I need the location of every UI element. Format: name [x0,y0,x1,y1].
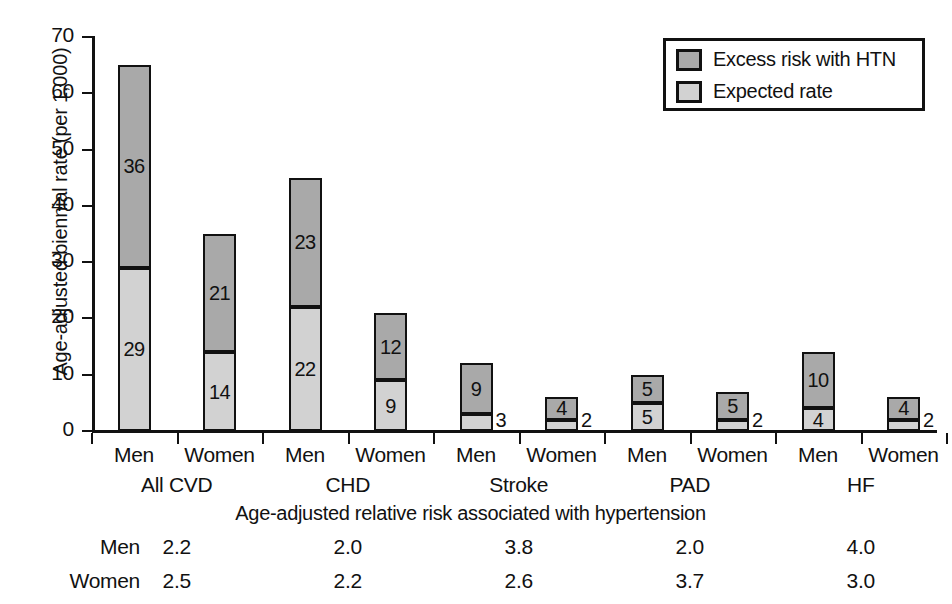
y-tick-mark [82,261,95,263]
x-group-label-hf: HF [791,473,931,497]
table-cell: 2.0 [303,535,393,559]
bar-value-excess: 12 [380,337,401,357]
bar-segment-expected: 29 [118,268,151,431]
y-tick-mark [82,430,95,432]
bar-segment-expected: 5 [631,403,664,431]
bar-value-expected: 2 [581,410,592,430]
bar-value-expected: 2 [923,410,934,430]
bar-segment-expected: 4 [802,408,835,431]
bar-hf-women: 42 [887,397,920,431]
bar-chd-women: 129 [374,313,407,431]
y-tick-label: 30 [14,248,74,272]
bar-segment-excess: 5 [716,392,749,420]
bar-segment-expected: 3 [460,414,493,431]
bar-segment-excess: 21 [203,234,236,352]
table-cell: 2.6 [474,569,564,593]
bar-segment-excess: 9 [460,363,493,414]
bar-value-excess: 9 [471,379,482,399]
bar-value-excess: 5 [642,379,653,399]
legend-label-expected: Expected rate [713,80,833,103]
bar-pad-men: 55 [631,375,664,431]
table-cell: 2.0 [645,535,735,559]
bar-hf-men: 104 [802,352,835,431]
bar-segment-expected: 14 [203,352,236,431]
y-tick-mark [82,92,95,94]
bar-value-excess: 36 [123,156,144,176]
bar-segment-excess: 10 [802,352,835,408]
table-cell: 4.0 [816,535,906,559]
bar-segment-excess: 36 [118,65,151,268]
bar-chd-men: 2322 [289,178,322,431]
y-tick-label: 40 [14,192,74,216]
x-group-label-chd: CHD [278,473,418,497]
y-tick-label: 0 [14,417,74,441]
bar-pad-women: 52 [716,392,749,431]
y-tick-mark [82,374,95,376]
table-row-label-men: Men [10,535,140,559]
bar-segment-excess: 5 [631,375,664,403]
bar-segment-expected: 9 [374,380,407,431]
y-tick-mark [82,149,95,151]
bar-segment-expected: 2 [716,420,749,431]
y-tick-mark [82,36,95,38]
x-group-label-all-cvd: All CVD [107,473,247,497]
bar-value-expected: 14 [209,382,230,402]
table-cell: 2.5 [132,569,222,593]
y-tick-label: 50 [14,136,74,160]
x-group-label-pad: PAD [620,473,760,497]
y-tick-label: 60 [14,79,74,103]
y-tick-mark [82,317,95,319]
legend: Excess risk with HTN Expected rate [663,38,925,111]
bar-value-expected: 2 [752,410,763,430]
legend-item-excess: Excess risk with HTN [676,48,896,71]
legend-swatch-expected-icon [676,81,702,103]
bar-segment-expected: 22 [289,307,322,431]
x-group-label-stroke: Stroke [449,473,589,497]
bar-all-cvd-men: 3629 [118,65,151,431]
table-cell: 2.2 [132,535,222,559]
legend-swatch-excess-icon [676,49,702,71]
bar-value-expected: 3 [496,410,507,430]
bar-value-expected: 22 [294,359,315,379]
table-cell: 3.0 [816,569,906,593]
bar-value-expected: 4 [813,410,824,430]
bar-value-expected: 9 [385,396,396,416]
bar-value-expected: 5 [642,407,653,427]
bar-value-excess: 10 [807,370,828,390]
table-cell: 3.7 [645,569,735,593]
table-cell: 3.8 [474,535,564,559]
bar-value-excess: 21 [209,283,230,303]
bar-segment-expected: 2 [887,420,920,431]
table-cell: 2.2 [303,569,393,593]
bar-segment-excess: 4 [545,397,578,420]
bar-segment-expected: 2 [545,420,578,431]
y-tick-label: 70 [14,23,74,47]
bar-stroke-women: 42 [545,397,578,431]
table-caption: Age-adjusted relative risk associated wi… [0,502,941,525]
bar-value-excess: 5 [727,396,738,416]
bar-stroke-men: 93 [460,363,493,431]
bar-value-excess: 23 [294,232,315,252]
bar-segment-excess: 23 [289,178,322,307]
table-row-label-women: Women [10,569,140,593]
y-tick-mark [82,205,95,207]
bar-all-cvd-women: 2114 [203,234,236,431]
x-label-women-9: Women [854,443,952,467]
bar-segment-excess: 12 [374,313,407,381]
bar-value-expected: 29 [123,339,144,359]
legend-item-expected: Expected rate [676,80,833,103]
bar-value-excess: 4 [898,398,909,418]
y-tick-label: 10 [14,361,74,385]
y-tick-label: 20 [14,304,74,328]
legend-label-excess: Excess risk with HTN [713,48,896,71]
bar-segment-excess: 4 [887,397,920,420]
bar-value-excess: 4 [556,398,567,418]
